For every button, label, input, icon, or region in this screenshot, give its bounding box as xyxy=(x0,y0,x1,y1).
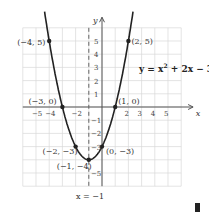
symmetry-label: x = −1 xyxy=(76,192,104,201)
svg-text:−3: −3 xyxy=(91,144,101,152)
svg-text:(−2, −3): (−2, −3) xyxy=(43,147,78,156)
svg-text:−2: −2 xyxy=(91,130,101,138)
svg-text:4: 4 xyxy=(94,51,99,59)
svg-text:(2, 5): (2, 5) xyxy=(131,37,153,46)
end-marker xyxy=(195,203,200,212)
parabola-chart: xy (−4, 5)(2, 5)(−3, 0)(1, 0)(−2, −3)(0,… xyxy=(0,0,209,213)
svg-text:2: 2 xyxy=(94,78,98,86)
svg-text:(−1, −4): (−1, −4) xyxy=(57,162,92,171)
svg-text:−5: −5 xyxy=(32,110,42,118)
svg-text:2: 2 xyxy=(124,110,128,118)
equation-label: y = x2 + 2x − 3 xyxy=(138,62,209,74)
svg-text:3: 3 xyxy=(138,110,142,118)
svg-text:−1: −1 xyxy=(91,117,101,125)
svg-text:5: 5 xyxy=(94,38,98,46)
svg-text:x: x xyxy=(196,109,201,118)
svg-text:y: y xyxy=(92,16,98,25)
svg-text:(−3, 0): (−3, 0) xyxy=(28,97,56,106)
svg-text:(0, −3): (0, −3) xyxy=(106,147,134,156)
svg-text:(1, 0): (1, 0) xyxy=(118,97,140,106)
svg-text:−4: −4 xyxy=(45,110,56,118)
svg-text:−2: −2 xyxy=(72,110,82,118)
labeled-points: (−4, 5)(2, 5)(−3, 0)(1, 0)(−2, −3)(0, −3… xyxy=(17,37,153,171)
svg-text:1: 1 xyxy=(94,91,98,99)
svg-text:4: 4 xyxy=(151,110,156,118)
svg-text:−5: −5 xyxy=(91,170,101,178)
svg-text:5: 5 xyxy=(164,110,168,118)
svg-text:(−4, 5): (−4, 5) xyxy=(17,38,45,47)
svg-text:3: 3 xyxy=(94,64,98,72)
